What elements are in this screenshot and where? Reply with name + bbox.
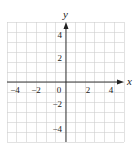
- x-tick-label: −2: [31, 85, 41, 95]
- x-tick-label: 0: [57, 85, 62, 95]
- y-tick-label: −4: [52, 124, 62, 134]
- y-axis-label: y: [62, 8, 68, 20]
- y-tick-label: 2: [58, 53, 63, 63]
- x-tick-label: 4: [109, 85, 114, 95]
- x-tick-label: 2: [86, 85, 91, 95]
- coordinate-grid: x y −4 −2 0 2 4 4 2 −2 −4: [0, 0, 136, 150]
- x-axis-arrow-icon: [117, 80, 124, 85]
- y-tick-label: 4: [58, 30, 63, 40]
- y-axis-arrow-icon: [64, 22, 69, 29]
- y-tick-label: −2: [52, 99, 62, 109]
- x-tick-label: −4: [10, 85, 20, 95]
- x-axis-label: x: [126, 75, 132, 87]
